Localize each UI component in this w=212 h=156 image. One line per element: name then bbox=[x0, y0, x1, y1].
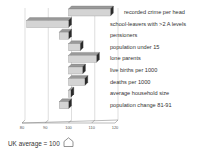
category-label: recorded crime per head bbox=[124, 9, 185, 15]
bar bbox=[69, 52, 100, 62]
category-label: average household size bbox=[110, 90, 169, 96]
house-icon bbox=[63, 137, 74, 147]
category-label: deaths per 1000 bbox=[110, 79, 150, 85]
category-label: population under 15 bbox=[110, 44, 159, 50]
category-labels: recorded crime per headschool-leavers wi… bbox=[110, 9, 186, 108]
category-label: pensioners bbox=[110, 32, 138, 38]
category-label: school-leavers with >2 A levels bbox=[110, 21, 186, 27]
category-label: live births per 1000 bbox=[110, 67, 157, 73]
x-tick-label: 90 bbox=[43, 125, 48, 130]
legend-footer: UK average = 100 bbox=[8, 137, 74, 147]
bar bbox=[59, 99, 71, 109]
bar bbox=[69, 6, 114, 16]
x-tick-label: 100 bbox=[65, 125, 72, 130]
uk-average-note: UK average = 100 bbox=[8, 140, 60, 147]
x-tick-label: 80 bbox=[20, 125, 25, 130]
bar bbox=[69, 41, 84, 51]
x-tick-label: 110 bbox=[89, 125, 96, 130]
bar bbox=[69, 76, 88, 86]
bar-chart: 8090100110120 recorded crime per headsch… bbox=[0, 0, 212, 156]
x-tick-label: 120 bbox=[112, 125, 119, 130]
category-label: population change 81-91 bbox=[110, 102, 172, 108]
bar bbox=[27, 18, 72, 28]
bar bbox=[59, 29, 71, 39]
category-label: lone parents bbox=[110, 55, 141, 61]
bar bbox=[69, 87, 74, 97]
bars bbox=[27, 6, 114, 109]
bar bbox=[69, 64, 86, 74]
x-axis: 8090100110120 bbox=[20, 120, 119, 130]
